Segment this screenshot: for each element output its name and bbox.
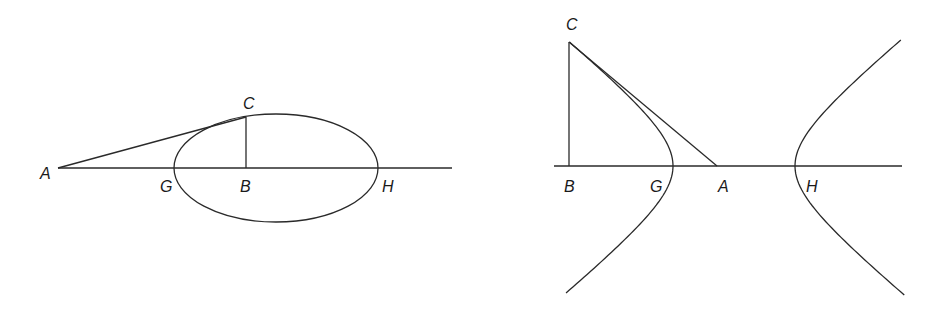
- conic-sections-diagram: C A G B H C B G A H: [0, 0, 946, 312]
- label-c: C: [566, 16, 578, 33]
- label-b: B: [240, 178, 251, 195]
- label-c: C: [243, 95, 255, 112]
- label-h: H: [806, 178, 818, 195]
- label-b: B: [564, 178, 575, 195]
- label-h: H: [382, 178, 394, 195]
- label-a: A: [717, 178, 729, 195]
- label-g: G: [650, 178, 662, 195]
- hyperbola-right-branch: [795, 40, 904, 295]
- hyperbola-figure: C B G A H: [554, 16, 904, 295]
- ellipse-figure: C A G B H: [39, 95, 452, 222]
- tangent-line-ac: [58, 117, 246, 168]
- label-g: G: [160, 178, 172, 195]
- label-a: A: [39, 165, 51, 182]
- hyperbola-left-branch: [566, 42, 673, 293]
